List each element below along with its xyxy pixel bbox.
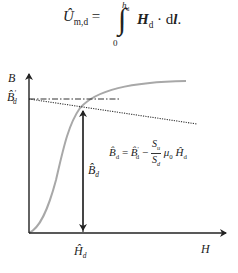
flux-sub: d bbox=[95, 170, 99, 179]
eq-mu-sub: 0 bbox=[169, 153, 172, 160]
field-strength-label: Ĥd bbox=[74, 244, 86, 260]
eq-frac-den: Sd bbox=[151, 154, 161, 169]
bh-diagram bbox=[0, 0, 238, 273]
eq-term1-sub: d bbox=[136, 153, 139, 160]
eq-frac-den-sub: d bbox=[157, 160, 160, 167]
eq-frac-num-sub: u bbox=[157, 144, 160, 151]
flux-density-label: B̂d bbox=[88, 163, 99, 179]
field-sub: d bbox=[83, 251, 87, 260]
field-symbol: Ĥ bbox=[74, 244, 83, 258]
load-line bbox=[29, 99, 197, 124]
eq-lhs-sub: d bbox=[116, 153, 119, 160]
remanence-label: B̂'d bbox=[7, 89, 17, 106]
y-axis-label: B bbox=[8, 71, 15, 86]
eq-frac-num: Su bbox=[151, 138, 161, 154]
eq-lhs: B̂ bbox=[109, 146, 116, 158]
eq-minus: − bbox=[142, 146, 148, 158]
eq-equals: = bbox=[122, 146, 128, 158]
load-line-equation: B̂d = B̂'d − Su Sd μ0 Ĥd bbox=[109, 138, 187, 169]
x-axis-label: H bbox=[201, 242, 210, 257]
eq-term1-prime: ' bbox=[138, 145, 139, 152]
eq-term2-sub: d bbox=[183, 153, 186, 160]
remanence-sub: d bbox=[13, 97, 17, 106]
eq-fraction: Su Sd bbox=[151, 138, 161, 169]
